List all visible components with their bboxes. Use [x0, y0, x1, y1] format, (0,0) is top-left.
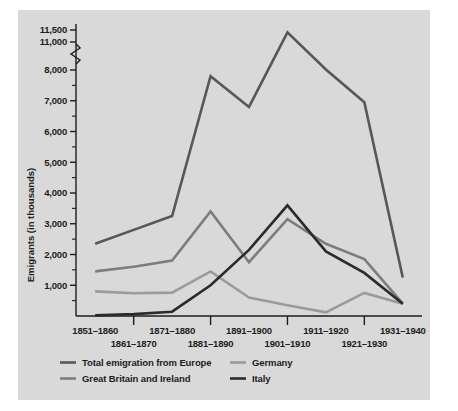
x-tick-label: 1931–1940 [380, 325, 426, 336]
y-axis-ticks: 1,0002,0003,0004,0005,0006,0007,0008,000… [40, 24, 76, 300]
series-line-great-britain-and-ireland [95, 211, 403, 303]
x-tick-label: 1921–1930 [341, 338, 387, 349]
y-tick-label: 7,000 [44, 95, 67, 106]
y-axis-title: Emigrants (in thousands) [25, 168, 36, 283]
chart-canvas: Emigrants (in thousands) 1,0002,0003,000… [18, 10, 430, 400]
x-tick-label: 1871–1880 [149, 325, 195, 336]
chart-figure: Emigrants (in thousands) 1,0002,0003,000… [18, 10, 430, 400]
y-axis-title-label: Emigrants (in thousands) [25, 168, 36, 283]
y-tick-label: 6,000 [44, 126, 67, 137]
legend-label: Great Britain and Ireland [82, 373, 191, 384]
data-series-group [95, 32, 403, 315]
x-axis-ticks [134, 316, 365, 325]
y-tick-label: 11,500 [40, 24, 67, 35]
chart-legend: Total emigration from EuropeGermanyGreat… [60, 357, 293, 384]
y-tick-label: 3,000 [44, 218, 67, 229]
legend-label: Total emigration from Europe [82, 357, 212, 368]
y-tick-label: 8,000 [44, 64, 67, 75]
y-tick-label: 1,000 [44, 280, 67, 291]
legend-label: Germany [252, 357, 293, 368]
x-tick-label: 1911–1920 [303, 325, 348, 336]
y-tick-label: 2,000 [44, 249, 67, 260]
x-tick-label: 1881–1890 [188, 338, 234, 349]
line-chart-svg: Emigrants (in thousands) 1,0002,0003,000… [18, 10, 430, 400]
x-tick-label: 1891–1900 [226, 325, 272, 336]
legend-label: Italy [252, 373, 271, 384]
y-tick-label: 5,000 [44, 157, 67, 168]
series-line-germany [95, 271, 403, 312]
y-tick-label: 11,000 [40, 36, 67, 47]
x-tick-label: 1851–1860 [72, 325, 118, 336]
x-axis-labels: 1851–18601861–18701871–18801881–18901891… [72, 325, 425, 349]
series-line-total-emigration-from-europe [95, 32, 403, 277]
y-tick-label: 4,000 [44, 187, 67, 198]
x-tick-label: 1901–1910 [265, 338, 311, 349]
x-tick-label: 1861–1870 [111, 338, 157, 349]
